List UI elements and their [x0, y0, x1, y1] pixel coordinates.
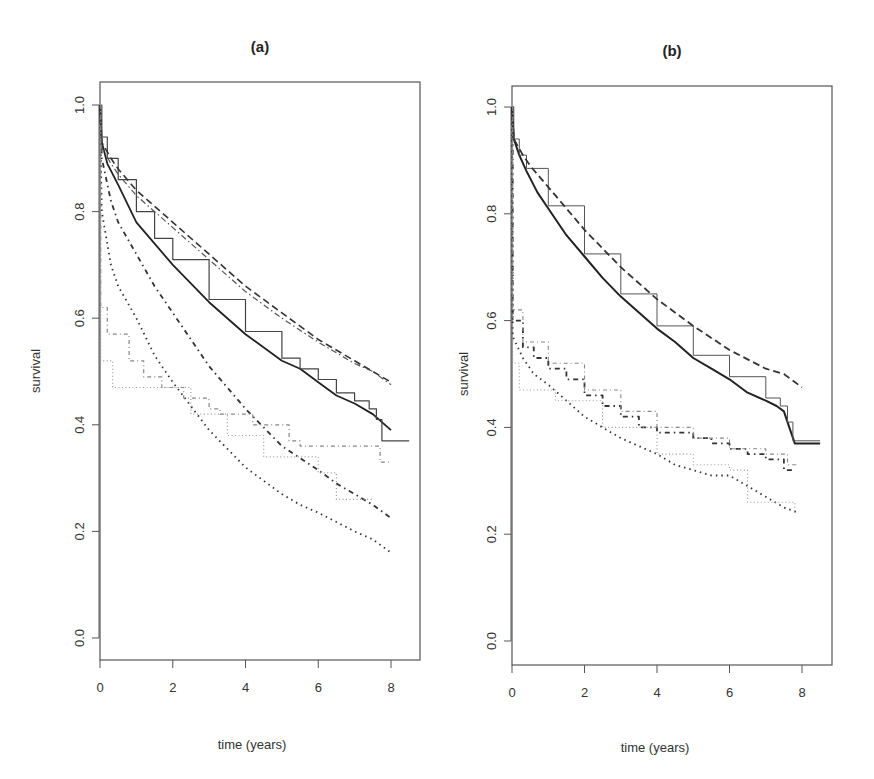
y-tick-label: 0.0 — [484, 632, 499, 650]
y-tick-label: 0.0 — [72, 629, 87, 647]
x-tick-label: 4 — [242, 680, 249, 695]
y-tick-label: 0.2 — [72, 522, 87, 540]
y-tick-label: 0.2 — [484, 525, 499, 543]
x-tick-label: 6 — [726, 685, 733, 700]
survival-curve-solid-2 — [512, 107, 820, 441]
x-tick-label: 8 — [387, 680, 394, 695]
panel-b-title: (b) — [662, 42, 681, 59]
y-tick-label: 0.6 — [72, 309, 87, 327]
panel-b-ylabel: survival — [456, 352, 471, 396]
panel-b-x-axis: 02468 — [508, 665, 805, 700]
panel-b-xlabel: time (years) — [621, 740, 690, 755]
survival-figure: (a) 0.00.20.40.60.81.0 02468 survival ti… — [0, 0, 874, 779]
survival-curve-grey-step-dotted — [100, 105, 373, 499]
survival-curve-dashed-2 — [100, 105, 391, 385]
y-tick-label: 1.0 — [72, 96, 87, 114]
x-tick-label: 2 — [169, 680, 176, 695]
panel-b-y-axis: 0.00.20.40.60.81.0 — [484, 98, 511, 650]
survival-curve-solid-1 — [100, 105, 391, 430]
panel-b-frame — [512, 86, 832, 665]
survival-curve-dashed-1 — [100, 105, 391, 382]
x-tick-label: 2 — [581, 685, 588, 700]
survival-curve-grey-step-dotted — [512, 107, 795, 513]
panel-a-x-axis: 02468 — [96, 660, 394, 695]
y-tick-label: 0.8 — [484, 205, 499, 223]
x-tick-label: 8 — [798, 685, 805, 700]
panel-a: (a) 0.00.20.40.60.81.0 02468 survival ti… — [28, 38, 420, 752]
panel-a-series — [100, 105, 409, 553]
y-tick-label: 0.4 — [72, 416, 87, 434]
x-tick-label: 0 — [96, 680, 103, 695]
y-tick-label: 0.8 — [72, 203, 87, 221]
x-tick-label: 6 — [315, 680, 322, 695]
survival-curve-dotdash-step — [512, 107, 795, 470]
survival-curve-grey-step-dashdot — [100, 105, 391, 462]
x-tick-label: 4 — [653, 685, 660, 700]
panel-a-y-axis: 0.00.20.40.60.81.0 — [72, 96, 99, 647]
panel-b: (b) 0.00.20.40.60.81.0 02468 survival ti… — [456, 42, 832, 755]
x-tick-label: 0 — [508, 685, 515, 700]
y-tick-label: 0.6 — [484, 312, 499, 330]
panel-a-xlabel: time (years) — [218, 737, 287, 752]
survival-curve-dashed-1 — [512, 107, 802, 387]
y-tick-label: 0.4 — [484, 418, 499, 436]
survival-curve-dotted — [512, 107, 798, 513]
panel-a-ylabel: survival — [28, 349, 43, 393]
survival-curve-grey-step-dashdot — [512, 107, 798, 465]
panel-b-series — [512, 107, 820, 513]
panel-a-title: (a) — [251, 38, 269, 55]
y-tick-label: 1.0 — [484, 98, 499, 116]
